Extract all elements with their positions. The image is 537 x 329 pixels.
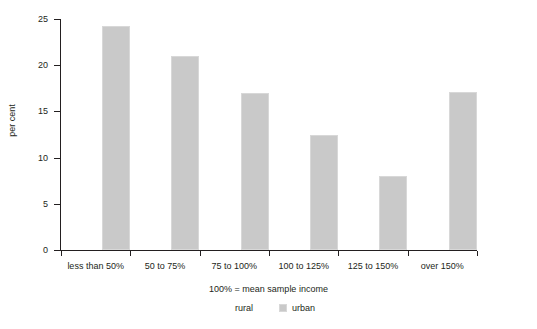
x-tick-mark <box>269 251 270 256</box>
x-tick-mark <box>61 251 62 256</box>
legend-item-urban: urban <box>279 303 315 313</box>
y-tick-mark <box>54 65 60 66</box>
x-axis-title: 100% = mean sample income <box>0 284 537 294</box>
bar-urban-2 <box>241 93 269 250</box>
x-tick-mark <box>338 251 339 256</box>
y-tick-mark <box>54 111 60 112</box>
bar-urban-4 <box>379 176 407 250</box>
x-tick-mark <box>408 251 409 256</box>
x-tick-mark <box>130 251 131 256</box>
y-tick-label: 25 <box>0 15 48 24</box>
y-tick-label: 5 <box>0 200 48 209</box>
legend-label-rural: rural <box>235 303 253 313</box>
x-tick-mark <box>477 251 478 256</box>
legend-swatch-rural-icon <box>222 304 230 312</box>
y-tick-label: 0 <box>0 246 48 255</box>
y-tick-mark <box>54 158 60 159</box>
y-axis-title: per cent <box>8 81 17 161</box>
y-tick-label: 20 <box>0 61 48 70</box>
y-tick-mark <box>54 19 60 20</box>
x-tick-label: over 150% <box>392 261 492 271</box>
chart-legend: rural urban <box>0 303 537 313</box>
bar-urban-3 <box>310 135 338 250</box>
legend-item-rural: rural <box>222 303 253 313</box>
x-tick-mark <box>200 251 201 256</box>
legend-swatch-urban-icon <box>279 304 287 312</box>
y-tick-mark <box>54 204 60 205</box>
legend-label-urban: urban <box>292 303 315 313</box>
bar-urban-1 <box>171 56 199 250</box>
y-tick-mark <box>54 250 60 251</box>
plot-area <box>61 19 476 250</box>
bar-chart: 0510152025 less than 50%50 to 75%75 to 1… <box>0 0 537 329</box>
bar-urban-0 <box>102 26 130 250</box>
bar-urban-5 <box>449 92 477 250</box>
